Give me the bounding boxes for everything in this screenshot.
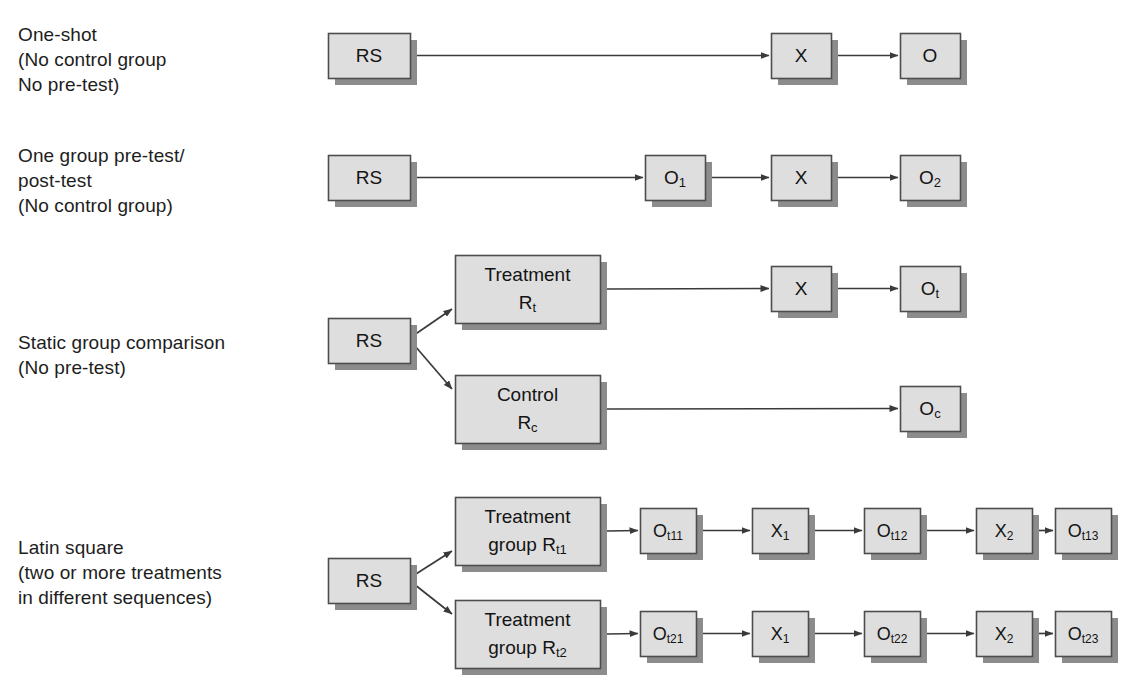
node-box-ot21[interactable]: Ot21 [641, 612, 704, 664]
arrow-tg1-4-to-ot11 [607, 531, 638, 532]
arrow-rs-3-to-ctrl-3 [412, 343, 452, 390]
node-label: RS [356, 167, 382, 188]
node-label-subscript: t21 [667, 632, 684, 646]
node-label-subscript: c [531, 420, 538, 435]
arrow-rs-4-to-tg2-4 [412, 583, 452, 615]
node-label-subscript: t12 [891, 529, 908, 543]
node-box-o2-2[interactable]: O2 [901, 156, 968, 208]
node-label-subscript: t22 [891, 632, 908, 646]
node-label: RS [356, 330, 382, 351]
node-box-ot-3[interactable]: Ot [901, 267, 968, 319]
row-label-line: No pre-test) [18, 72, 167, 97]
node-label-subscript: t11 [667, 529, 683, 543]
node-label: group Rt1 [488, 534, 566, 557]
arrow-tg2-4-to-ot21 [607, 634, 638, 635]
node-label-subscript: c [934, 406, 941, 421]
node-label: RS [356, 570, 382, 591]
node-box-ot22[interactable]: Ot22 [865, 612, 928, 664]
node-label-subscript: 1 [783, 529, 790, 543]
node-box-rs-2[interactable]: RS [329, 156, 418, 208]
node-label-subscript: t [533, 300, 537, 315]
node-label: X [795, 278, 808, 299]
node-label-subscript: t13 [1082, 529, 1099, 543]
row-label-one-shot: One-shot(No control groupNo pre-test) [18, 22, 167, 97]
row-label-line: in different sequences) [18, 585, 222, 610]
row-label-line: post-test [18, 168, 185, 193]
row-label-line: (No control group [18, 47, 167, 72]
row-label-one-group-pre-post: One group pre-test/post-test(No control … [18, 143, 185, 218]
row-label-line: Latin square [18, 535, 222, 560]
experimental-designs-diagram: RSXORSO1XO2RSTreatmentRtControlRcXOtOcRS… [0, 0, 1139, 697]
node-box-x2-b[interactable]: X2 [977, 612, 1040, 664]
node-box-x2-a[interactable]: X2 [977, 509, 1040, 561]
node-label-subscript: 1 [679, 175, 686, 190]
node-box-x-3[interactable]: X [772, 267, 839, 319]
node-box-ot12[interactable]: Ot12 [865, 509, 928, 561]
node-box-rs-3[interactable]: RS [329, 319, 418, 371]
node-box-x1-b[interactable]: X1 [753, 612, 816, 664]
node-box-rs-1[interactable]: RS [329, 34, 418, 86]
node-box-oc-3[interactable]: Oc [901, 387, 968, 439]
row-label-latin-square: Latin square(two or more treatmentsin di… [18, 535, 222, 610]
node-box-rs-4[interactable]: RS [329, 559, 418, 611]
node-label: O [923, 45, 938, 66]
row-label-line: One group pre-test/ [18, 143, 185, 168]
node-label: group Rt2 [488, 637, 566, 660]
arrow-rs-4-to-tg1-4 [412, 551, 452, 577]
node-label: RS [356, 45, 382, 66]
node-box-x1-a[interactable]: X1 [753, 509, 816, 561]
node-box-x-1[interactable]: X [772, 34, 839, 86]
node-box-tg1-4[interactable]: Treatmentgroup Rt1 [456, 498, 608, 573]
node-label-subscript: t1 [556, 542, 567, 557]
node-label: Treatment [485, 264, 572, 285]
node-box-x-2[interactable]: X [772, 156, 839, 208]
node-label: Treatment [485, 506, 572, 527]
node-box-tg2-4[interactable]: Treatmentgroup Rt2 [456, 601, 608, 676]
node-box-ctrl-3[interactable]: ControlRc [456, 376, 608, 451]
row-label-line: (No pre-test) [18, 355, 225, 380]
node-box-ot11[interactable]: Ot11 [641, 509, 704, 561]
node-box-ot23[interactable]: Ot23 [1056, 612, 1119, 664]
node-label-subscript: 2 [934, 175, 941, 190]
row-label-static-group-comparison: Static group comparison(No pre-test) [18, 330, 225, 380]
row-label-line: (two or more treatments [18, 560, 222, 585]
node-label-subscript: 1 [783, 632, 790, 646]
box-layer: RSXORSO1XO2RSTreatmentRtControlRcXOtOcRS… [329, 34, 1119, 676]
node-box-o-1[interactable]: O [901, 34, 968, 86]
row-label-line: (No control group) [18, 193, 185, 218]
node-box-o1-2[interactable]: O1 [646, 156, 713, 208]
node-label: Treatment [485, 609, 572, 630]
node-label-subscript: t23 [1082, 632, 1099, 646]
arrow-ctrl-3-to-oc-3 [607, 409, 898, 410]
node-box-ot13[interactable]: Ot13 [1056, 509, 1119, 561]
arrow-rs-3-to-treat-3 [412, 309, 452, 337]
node-label-subscript: t2 [556, 645, 567, 660]
node-label: X [795, 45, 808, 66]
node-label: Control [497, 384, 558, 405]
row-label-line: One-shot [18, 22, 167, 47]
node-label-subscript: 2 [1007, 529, 1014, 543]
node-label: X [795, 167, 808, 188]
node-label-subscript: 2 [1007, 632, 1014, 646]
row-label-line: Static group comparison [18, 330, 225, 355]
arrow-treat-3-to-x-3 [607, 289, 769, 290]
node-box-treat-3[interactable]: TreatmentRt [456, 256, 608, 331]
node-label-subscript: t [936, 286, 940, 301]
